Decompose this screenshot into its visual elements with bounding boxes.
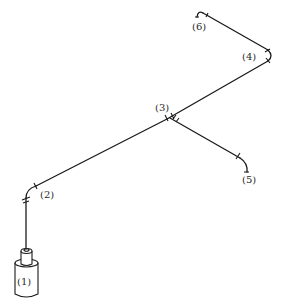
label-3: (3) <box>155 102 169 113</box>
piping-diagram: (1) (2) (3) (4) (5) (6) <box>0 0 283 308</box>
label-6: (6) <box>192 21 206 32</box>
tee-3-flanges <box>165 113 179 122</box>
pipe-4-6 <box>203 13 268 50</box>
label-1: (1) <box>17 276 31 287</box>
pipe-3-5 <box>170 118 240 158</box>
elbow-2 <box>26 186 36 198</box>
elbow-4 <box>268 50 271 61</box>
tank-1 <box>15 249 38 298</box>
pipe-3-4 <box>167 61 268 119</box>
label-4: (4) <box>242 51 256 62</box>
elbow-5 <box>240 158 247 172</box>
label-5: (5) <box>242 174 256 185</box>
label-2: (2) <box>40 189 54 200</box>
elbow-6 <box>197 12 203 17</box>
pipe-2-3 <box>36 119 167 186</box>
